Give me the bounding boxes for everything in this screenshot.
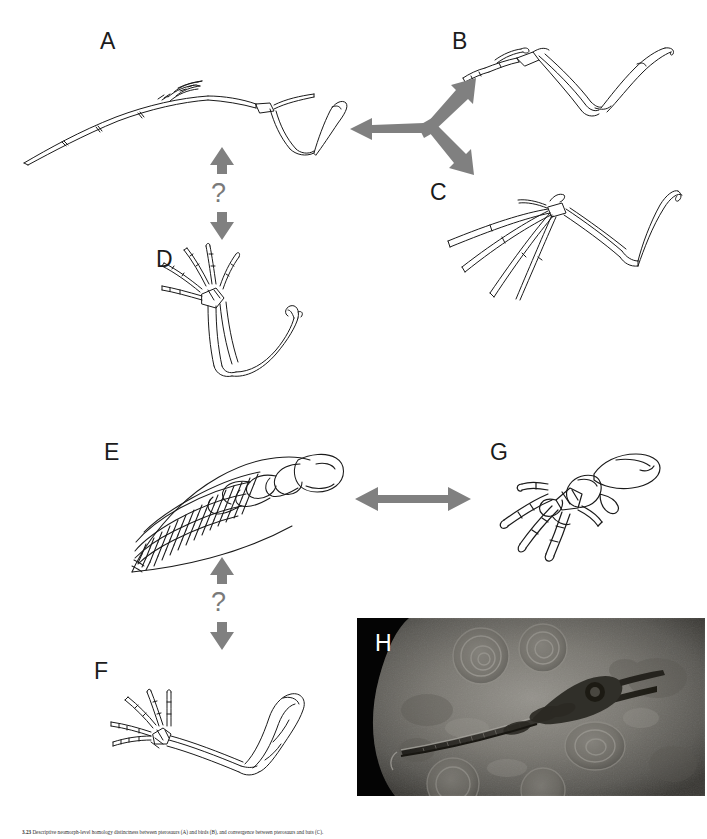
- question-mark-a-d: ?: [211, 180, 226, 207]
- caption-text: Descriptive neomorph-level homology dist…: [32, 829, 323, 835]
- ichthyosaur-paddle-drawing: [130, 448, 355, 578]
- generalized-forelimb-drawing: [95, 680, 310, 780]
- question-mark-e-f: ?: [211, 589, 226, 616]
- pterosaur-wing-drawing: [18, 75, 348, 170]
- panel-label-e: E: [104, 441, 119, 464]
- bat-wing-drawing: [420, 175, 695, 300]
- arrow-e-to-g: [355, 487, 471, 511]
- bird-wing-drawing: [455, 32, 685, 142]
- figure-caption: 3.23 Descriptive neomorph-level homology…: [22, 829, 694, 835]
- fossil-photo-svg: [357, 618, 705, 796]
- caption-number: 3.23: [22, 829, 31, 835]
- terrestrial-manus-drawing: [490, 448, 680, 568]
- panel-h-photograph: H: [357, 618, 705, 796]
- panel-label-h: H: [375, 632, 392, 655]
- figure-root: A: [0, 0, 707, 839]
- generalized-tetrapod-forelimb-drawing: [140, 238, 320, 383]
- panel-label-a: A: [100, 30, 115, 53]
